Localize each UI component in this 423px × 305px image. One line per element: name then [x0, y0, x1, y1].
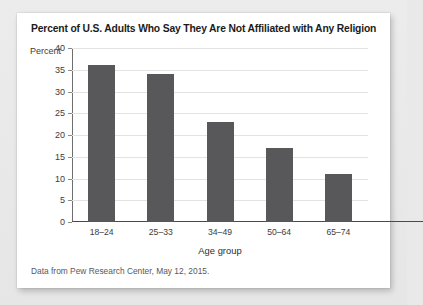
y-axis-tick-label: 5 — [60, 195, 65, 205]
bar[interactable] — [325, 174, 352, 222]
bar[interactable] — [207, 122, 234, 222]
x-axis-tick-label: 25–33 — [132, 227, 190, 237]
y-axis-tick-label: 10 — [55, 174, 65, 184]
y-axis-tick-label: 0 — [60, 217, 65, 227]
plot-area: 0510152025303540 18–2425–3334–4950–6465–… — [72, 48, 368, 222]
y-axis-tick-label: 35 — [55, 65, 65, 75]
bar-series — [72, 48, 368, 222]
x-axis-tick-label: 18–24 — [73, 227, 131, 237]
y-axis-tick — [68, 222, 72, 223]
bar[interactable] — [147, 74, 174, 222]
source-note: Data from Pew Research Center, May 12, 2… — [31, 266, 209, 276]
y-axis-tick-label: 15 — [55, 152, 65, 162]
y-axis-tick-label: 30 — [55, 87, 65, 97]
y-axis-tick-label: 20 — [55, 130, 65, 140]
x-axis-title: Age group — [72, 245, 368, 256]
chart-card: Percent of U.S. Adults Who Say They Are … — [17, 13, 390, 288]
y-axis-tick-label: 40 — [55, 43, 65, 53]
x-axis-tick-label: 65–74 — [309, 227, 367, 237]
page-title: Percent of U.S. Adults Who Say They Are … — [31, 23, 381, 34]
y-axis-tick-label: 25 — [55, 108, 65, 118]
bar[interactable] — [88, 65, 115, 222]
x-axis-tick-label: 34–49 — [191, 227, 249, 237]
x-axis-tick-label: 50–64 — [250, 227, 308, 237]
bar[interactable] — [266, 148, 293, 222]
